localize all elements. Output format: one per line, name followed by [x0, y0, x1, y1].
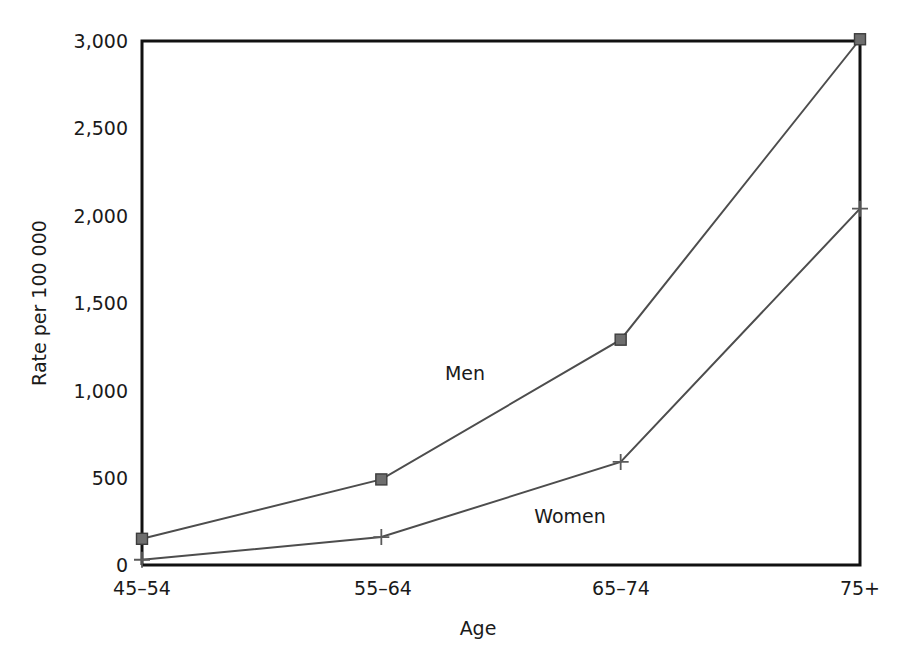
x-tick-label-65-74: 65–74	[592, 577, 650, 599]
x-axis-title: Age	[460, 617, 497, 639]
line-chart: 3,000 2,500 2,000 1,500 1,000 500 0 Rate…	[0, 0, 902, 661]
y-tick-label-1000: 1,000	[74, 380, 128, 402]
series-men	[137, 34, 866, 545]
data-point-marker	[137, 533, 148, 544]
data-point-marker	[615, 334, 626, 345]
data-point-marker	[373, 529, 389, 545]
women-line	[142, 209, 860, 560]
y-tick-label-2000: 2,000	[74, 205, 128, 227]
y-tick-label-2500: 2,500	[74, 117, 128, 139]
y-tick-label-500: 500	[92, 467, 128, 489]
y-axis-title: Rate per 100 000	[28, 220, 50, 386]
data-point-marker	[855, 34, 866, 45]
y-tick-label-0: 0	[116, 554, 128, 576]
y-tick-label-3000: 3,000	[74, 30, 128, 52]
series-annotation-men: Men	[445, 362, 485, 384]
y-tick-label-1500: 1,500	[74, 292, 128, 314]
x-tick-label-45-54: 45–54	[113, 577, 171, 599]
x-tick-label-55-64: 55–64	[354, 577, 412, 599]
series-annotation-women: Women	[534, 505, 606, 527]
men-markers	[137, 34, 866, 545]
plot-frame-bottom-right	[142, 41, 860, 565]
men-line	[142, 39, 860, 539]
chart-figure: 3,000 2,500 2,000 1,500 1,000 500 0 Rate…	[0, 0, 902, 661]
x-tick-label-75plus: 75+	[840, 577, 880, 599]
plot-frame-left-top	[142, 41, 860, 565]
data-point-marker	[376, 474, 387, 485]
